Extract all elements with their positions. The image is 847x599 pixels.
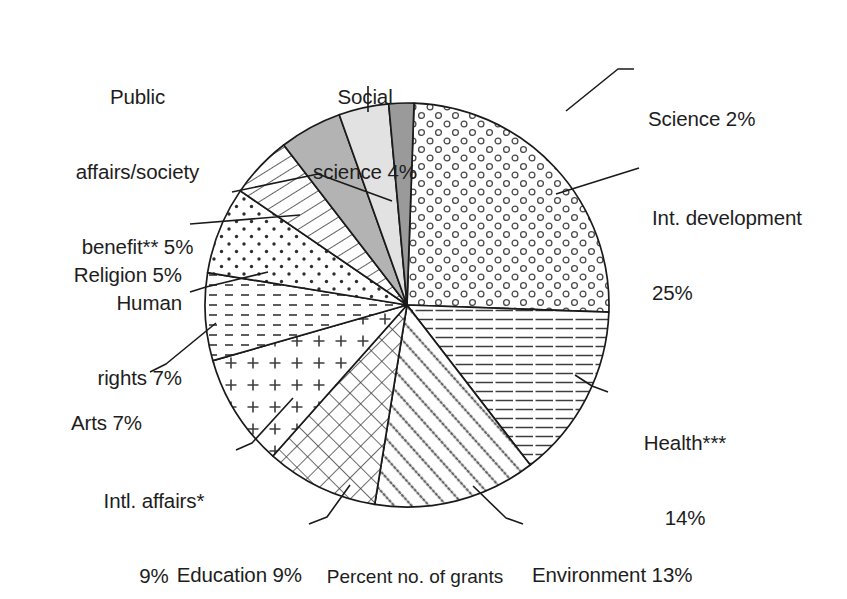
pie-chart-figure: Public affairs/society benefit** 5% Soci… [0, 0, 847, 599]
label-social-science: Social science 4% [280, 34, 450, 234]
label-health-line1: Health*** [615, 430, 755, 455]
label-int-development: Int. development 25% [652, 155, 847, 355]
label-science-line1: Science 2% [648, 106, 838, 131]
label-intl-affairs-line1: Intl. affairs* [78, 488, 230, 513]
label-human-rights-line1: Human [0, 290, 182, 315]
label-int-development-line2: 25% [652, 280, 847, 305]
label-public-affairs-line2: affairs/society [40, 159, 235, 184]
label-public-affairs-line1: Public [40, 84, 235, 109]
figure-caption: Percent no. of grants [265, 566, 565, 588]
leader-line-int-development [556, 168, 639, 194]
leader-line-science [566, 69, 634, 111]
label-health-line2: 14% [615, 505, 755, 530]
label-arts-line1: Arts 7% [0, 410, 142, 435]
label-social-science-line1: Social [280, 84, 450, 109]
label-int-development-line1: Int. development [652, 205, 847, 230]
label-social-science-line2: science 4% [280, 159, 450, 184]
label-health: Health*** 14% [615, 380, 755, 580]
